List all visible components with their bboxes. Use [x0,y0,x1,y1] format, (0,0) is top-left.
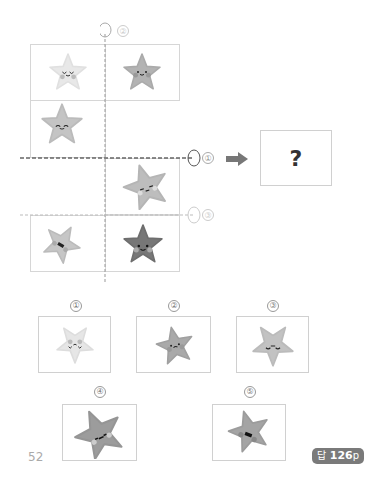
right-arrow-icon [226,152,248,166]
axis-2-label: ② [117,25,129,37]
option-1-box[interactable] [38,316,111,373]
option-3-number: ③ [267,300,279,312]
option-1-number: ① [70,300,82,312]
axis-1-label: ① [202,152,214,164]
option-4-star [69,407,129,459]
answer-page-badge: 답 126p [312,448,364,464]
answer-ref-prefix: 답 [317,450,326,461]
answer-ref-page: 126 [330,449,353,462]
option-2-box[interactable] [136,316,211,373]
question-mark: ? [290,146,303,171]
option-3-box[interactable] [236,316,309,373]
axis-3-label: ③ [202,209,214,221]
star-bottom-right [122,222,164,266]
option-3-star [251,323,295,369]
star-top-left [48,52,88,92]
option-5-box[interactable] [212,404,286,461]
option-1-star [55,325,95,365]
horizontal-axis-1-line [18,148,203,170]
option-2-star [155,325,195,365]
answer-placeholder-box: ? [260,130,332,186]
answer-ref-suffix: p [353,450,359,461]
star-middle-right [120,162,172,210]
option-5-number: ⑤ [244,386,256,398]
star-bottom-left [42,221,82,265]
star-middle-left [40,102,84,146]
option-5-star [227,409,271,457]
option-4-number: ④ [94,386,106,398]
star-top-right [122,52,162,92]
option-2-number: ② [168,300,180,312]
page-number: 52 [28,450,43,464]
option-4-box[interactable] [62,404,137,461]
